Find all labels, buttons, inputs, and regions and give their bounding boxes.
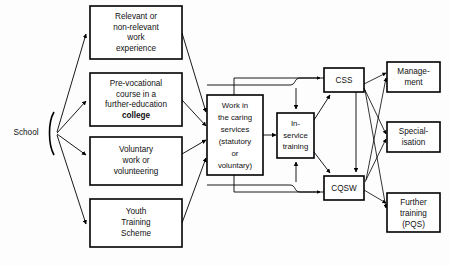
voluntary-work-line-2: work or: [122, 156, 150, 165]
node-voluntary-work: Voluntary work or volunteering: [90, 137, 182, 185]
node-further-training: Further training (PQS): [387, 193, 440, 232]
caring-services-line-2: the caring: [218, 113, 252, 122]
flowchart-canvas: School Relevant or non-relevant work exp…: [0, 0, 449, 266]
work-experience-line-4: experience: [116, 44, 157, 53]
specialisation-line-2: isation: [402, 138, 426, 147]
youth-training-line-1: Youth: [126, 207, 147, 216]
management-line-2: ment: [404, 78, 423, 87]
edge-work-experience-to-caring: [182, 33, 206, 112]
further-training-line-1: Further: [400, 198, 427, 207]
css-label: CSS: [336, 76, 353, 85]
work-experience-line-3: work: [126, 33, 145, 42]
node-work-in-caring-services: Work in the caring services (statutory o…: [207, 95, 263, 175]
edge-css-to-further-training: [365, 90, 386, 208]
youth-training-line-2: Training: [121, 218, 151, 227]
in-service-line-2: service: [283, 131, 308, 140]
caring-services-line-1: Work in: [222, 101, 248, 110]
node-management: Manage- ment: [387, 62, 440, 92]
pre-vocational-line-3: further-education: [105, 100, 167, 109]
merge-jump-to-css: [290, 78, 320, 85]
edge-cqsw-to-further-training: [364, 190, 386, 203]
youth-training-line-3: Scheme: [121, 229, 151, 238]
work-experience-line-2: non-relevant: [113, 23, 159, 32]
edge-css-to-management: [364, 73, 386, 84]
management-line-1: Manage-: [397, 67, 430, 76]
school-to-routes-edges: [57, 34, 86, 224]
flowchart-diagram: School Relevant or non-relevant work exp…: [0, 0, 449, 266]
merge-jump-to-cqsw: [290, 185, 320, 192]
routes-to-caring-edges: [182, 33, 206, 223]
school-brace-icon: [50, 112, 55, 155]
edge-youth-training-to-caring: [182, 158, 206, 223]
in-service-line-1: In-: [291, 119, 301, 128]
work-experience-line-1: Relevant or: [115, 12, 157, 21]
further-training-line-2: training: [400, 209, 427, 218]
edge-in-service-to-css: [314, 95, 330, 120]
edge-in-service-to-cqsw: [314, 152, 330, 173]
specialisation-line-1: Special-: [399, 127, 429, 136]
node-cqsw: CQSW: [324, 176, 364, 200]
edge-cqsw-to-management: [366, 78, 386, 180]
caring-services-line-5: or: [232, 149, 239, 158]
edge-school-to-youth-training: [57, 135, 86, 224]
voluntary-work-line-1: Voluntary: [119, 145, 154, 154]
caring-services-line-3: services: [221, 125, 250, 134]
pre-vocational-line-4-college: college: [122, 111, 151, 120]
node-youth-training-scheme: Youth Training Scheme: [90, 199, 182, 247]
node-css: CSS: [324, 68, 364, 92]
node-in-service-training: In- service training: [277, 113, 314, 158]
node-work-experience: Relevant or non-relevant work experience: [90, 6, 182, 59]
edge-cqsw-to-specialisation: [365, 139, 386, 182]
caring-services-line-4: (statutory: [219, 137, 252, 146]
pre-vocational-line-2: course in a: [116, 90, 156, 99]
further-training-line-3: (PQS): [402, 220, 425, 229]
node-pre-vocational-course: Pre-vocational course in a further-educa…: [90, 73, 182, 126]
edge-voluntary-work-to-caring: [182, 140, 206, 154]
voluntary-work-line-3: volunteering: [114, 167, 159, 176]
in-service-line-3: training: [283, 142, 309, 151]
school-label: School: [13, 128, 38, 137]
cqsw-label: CQSW: [331, 184, 357, 193]
qualification-to-outcome-edges: [364, 73, 386, 208]
caring-services-line-6: voluntary): [218, 161, 253, 170]
pre-vocational-line-1: Pre-vocational: [110, 79, 163, 88]
edge-school-to-voluntary-work: [57, 134, 86, 155]
school-group: School: [13, 112, 54, 155]
node-specialisation: Special- isation: [387, 122, 440, 152]
edge-pre-vocational-to-caring: [182, 100, 206, 126]
